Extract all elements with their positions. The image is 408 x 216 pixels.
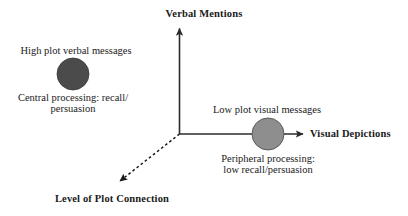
- node-title-low-plot-visual: Low plot visual messages: [213, 104, 321, 115]
- node-caption-high-plot-verbal: Central processing: recall/ persuasion: [18, 92, 128, 114]
- axis-label-verbal-mentions: Verbal Mentions: [166, 8, 243, 19]
- diagram-canvas: Verbal Mentions Visual Depictions Level …: [0, 0, 408, 216]
- axis-label-visual-depictions: Visual Depictions: [310, 128, 391, 139]
- axis-line-plot-connection: [120, 134, 180, 181]
- node-caption-low-plot-visual: Peripheral processing: low recall/persua…: [221, 153, 315, 175]
- node-circle-low-plot-visual: [252, 118, 284, 150]
- axis-label-plot-connection: Level of Plot Connection: [55, 193, 169, 204]
- node-title-high-plot-verbal: High plot verbal messages: [20, 45, 131, 56]
- node-circle-high-plot-verbal: [57, 58, 89, 90]
